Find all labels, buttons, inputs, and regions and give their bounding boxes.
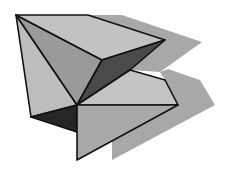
polyhedron-figure [0, 0, 227, 174]
polyhedron-faces [16, 15, 178, 160]
polyhedron-svg [0, 0, 227, 174]
